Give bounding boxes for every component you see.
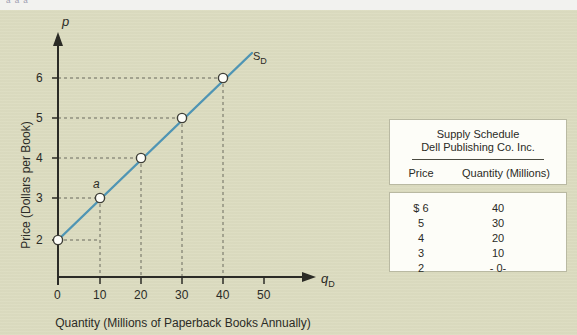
x-axis-subscript: D [328, 279, 335, 289]
y-tick-label-3: 3 [36, 191, 43, 205]
table-title-line-1: Supply Schedule [390, 128, 566, 140]
guide-lines [58, 78, 223, 277]
x-tick-label-0: 0 [54, 288, 61, 302]
column-header-price: Price [390, 167, 452, 179]
table-row[interactable]: 2 - 0- [390, 260, 566, 275]
y-axis-arrow [53, 32, 63, 46]
cell-price: 4 [390, 232, 452, 244]
cell-price: 2 [390, 262, 452, 274]
y-tick-label-6: 6 [36, 71, 43, 85]
y-tick-label-2: 2 [36, 233, 43, 247]
cell-quantity: 20 [452, 232, 566, 244]
x-tick-label-30: 30 [175, 288, 188, 302]
curve-label-subscript: D [260, 56, 267, 66]
cell-quantity: - 0- [452, 262, 566, 274]
chart-svg [0, 10, 370, 335]
axes [52, 32, 316, 285]
cell-quantity: 40 [452, 202, 566, 214]
table-rows: $ 6 40 5 30 4 20 3 10 2 - 0- [390, 200, 566, 275]
y-tick-label-4: 4 [36, 151, 43, 165]
table-column-headers: Price Quantity (Millions) [390, 167, 566, 179]
table-row[interactable]: 4 20 [390, 230, 566, 245]
x-axis-symbol-group: qD [321, 269, 335, 289]
table-title-line-2: Dell Publishing Co. Inc. [390, 141, 566, 153]
cell-quantity: 10 [452, 247, 566, 259]
cell-price: $ 6 [390, 202, 452, 214]
page-edge-sliver: a a a [0, 0, 577, 10]
y-axis-symbol: p [62, 14, 69, 29]
x-axis-title: Quantity (Millions of Paperback Books An… [38, 316, 328, 330]
sliver-text-fragment: a a a [6, 0, 29, 5]
supply-curve-chart: 6 5 4 3 2 0 10 20 30 40 50 p qD SD a Pri… [0, 10, 370, 335]
cell-quantity: 30 [452, 217, 566, 229]
curve-label-group: SD [253, 46, 267, 66]
y-axis-title: Price (Dollars per Book) [19, 95, 33, 275]
column-header-quantity: Quantity (Millions) [452, 167, 566, 179]
x-axis-arrow [302, 272, 316, 282]
figure-root: a a a [0, 0, 577, 335]
table-title-divider [412, 159, 544, 160]
y-tick-label-5: 5 [36, 111, 43, 125]
x-tick-label-10: 10 [93, 288, 106, 302]
table-row[interactable]: 3 10 [390, 245, 566, 260]
x-ticks [58, 277, 264, 284]
point-annotation-a: a [93, 177, 100, 191]
data-point-0-2[interactable] [53, 235, 62, 244]
cell-price: 5 [390, 217, 452, 229]
data-point-40-6[interactable] [218, 73, 227, 82]
x-tick-label-50: 50 [257, 288, 270, 302]
data-point-20-4[interactable] [136, 153, 145, 162]
x-tick-label-40: 40 [216, 288, 229, 302]
supply-schedule-table-body: $ 6 40 5 30 4 20 3 10 2 - 0- [389, 192, 567, 272]
data-point-10-3[interactable] [95, 193, 104, 202]
data-point-30-5[interactable] [177, 113, 186, 122]
cell-price: 3 [390, 247, 452, 259]
table-row[interactable]: 5 30 [390, 215, 566, 230]
x-tick-label-20: 20 [134, 288, 147, 302]
table-row[interactable]: $ 6 40 [390, 200, 566, 215]
supply-schedule-table-header: Supply Schedule Dell Publishing Co. Inc.… [389, 119, 567, 185]
